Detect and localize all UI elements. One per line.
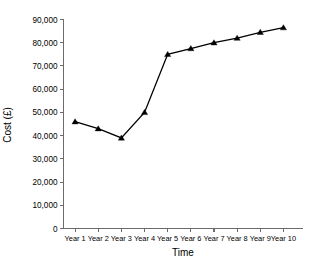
x-axis-tick-label: Year 7 [203, 234, 224, 243]
x-axis-tick-label: Year 3 [111, 234, 132, 243]
y-axis-tick-label: 70,000 [32, 62, 57, 71]
x-axis-title: Time [172, 247, 194, 258]
y-axis-tick-label: 10,000 [32, 201, 57, 210]
x-axis-tick-label: Year 1 [65, 234, 86, 243]
y-axis-tick-label: 60,000 [32, 85, 57, 94]
chart-canvas: 010,00020,00030,00040,00050,00060,00070,… [0, 0, 314, 260]
y-axis-title: Cost (£) [2, 107, 13, 143]
x-axis-tick-label: Year 6 [180, 234, 201, 243]
x-axis-tick-label: Year 2 [88, 234, 109, 243]
x-axis-tick-label: Year 5 [157, 234, 178, 243]
x-axis-tick-label: Year 4 [134, 234, 155, 243]
x-axis-tick-labels: Year 1Year 2Year 3Year 4Year 5Year 6Year… [65, 234, 297, 243]
x-axis-tick-label: Year 8 [227, 234, 248, 243]
y-axis-tick-label: 50,000 [32, 108, 57, 117]
y-axis-tick-label: 40,000 [32, 132, 57, 141]
x-axis-tick-label: Year 10 [271, 234, 296, 243]
line-chart: 010,00020,00030,00040,00050,00060,00070,… [0, 0, 314, 260]
y-axis-tick-label: 80,000 [32, 39, 57, 48]
y-axis-tick-label: 30,000 [32, 155, 57, 164]
x-axis-tick-label: Year 9 [250, 234, 271, 243]
y-axis-tick-label: 0 [53, 225, 58, 234]
y-axis-tick-label: 20,000 [32, 178, 57, 187]
y-axis-tick-label: 90,000 [32, 16, 57, 25]
